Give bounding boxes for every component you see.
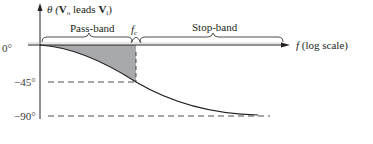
- stop-band-label: Stop-band: [192, 21, 238, 33]
- phase-curve: [40, 45, 258, 115]
- stop-band-brace: [140, 33, 283, 42]
- y-axis-arrow-icon: [38, 3, 43, 11]
- y-axis-label: θ (Vo leads Vi): [47, 3, 112, 17]
- y-tick-0: 0°: [2, 42, 12, 54]
- x-axis-label: f (log scale): [296, 39, 348, 52]
- x-axis-arrow-icon: [281, 43, 290, 48]
- phase-response-diagram: θ (Vo leads Vi) Pass-band Stop-band fc f…: [0, 0, 373, 144]
- fc-brace: [131, 37, 141, 43]
- cutoff-frequency-label: fc: [131, 23, 138, 37]
- y-tick-minus90: −90°: [14, 110, 36, 122]
- y-tick-minus45: −45°: [14, 76, 36, 88]
- pass-band-brace: [42, 33, 132, 42]
- pass-band-label: Pass-band: [70, 22, 115, 34]
- pass-band-shaded-area: [40, 45, 136, 82]
